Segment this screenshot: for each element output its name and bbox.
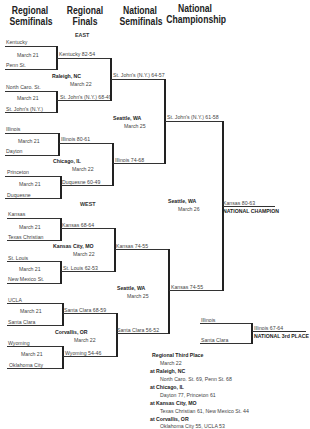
game-date: March 26 [178,206,200,212]
header-regional-finals: Regional Finals [65,5,106,27]
bracket-line [7,218,61,219]
third-place-site: at Chicago, IL [150,384,184,390]
bracket-line [7,240,61,241]
third-place-result: North Caro. St. 69, Penn St. 68 [160,376,232,382]
bracket-line [5,46,57,47]
team-entry: Kentucky [6,39,27,45]
bracket-line [251,323,253,344]
team-entry: Kentucky 82-54 [59,51,95,57]
bracket-line [112,143,114,186]
bracket-line [116,313,118,357]
bracket-line [7,303,63,304]
game-site: Chicago, IL [53,158,81,164]
bracket-line [117,333,169,334]
team-entry: St. John's (N.Y.) 64-57 [113,72,165,78]
bracket-line [7,261,61,262]
team-entry: Illinois 80-61 [61,136,90,142]
game-date: March 21 [17,95,39,101]
game-date: March 22 [74,337,96,343]
team-entry: St. John's (N.Y.) 61-58 [167,114,219,120]
third-place-label: NATIONAL 3rd PLACE [254,333,309,339]
bracket-line [61,185,113,186]
bracket-line [57,100,111,101]
game-date: March 25 [124,123,146,129]
game-date: March 22 [72,166,94,172]
game-date: March 21 [18,138,40,144]
header-national-semifinals: National Semifinals [120,5,161,27]
bracket-line [169,290,223,291]
game-site: Seattle, WA [117,285,145,291]
team-entry: Penn St. [6,62,26,68]
bracket-line [5,176,61,177]
game-date: March 21 [19,224,41,230]
team-entry: Princeton [7,169,29,175]
bracket-line [5,91,57,92]
game-site: Corvallis, OR [55,329,88,335]
bracket-line [7,283,61,284]
region-east-label: EAST [75,32,89,38]
game-date: March 22 [70,81,92,87]
third-place-result: Oklahoma City 55, UCLA 53 [160,423,225,429]
bracket-line [200,323,252,324]
game-date: March 21 [21,351,43,357]
header-national-championship: National Championship [166,3,223,25]
team-entry: Illinois [6,126,20,132]
game-date: March 21 [17,52,39,58]
game-date: March 21 [20,308,42,314]
bracket-line [115,249,169,250]
game-date: March 21 [19,266,41,272]
bracket-line [61,228,115,229]
bracket-line [113,163,165,164]
bracket-line [114,228,116,272]
third-place-title: Regional Third Place [152,352,203,358]
team-entry: New Mexico St. [8,276,44,282]
bracket-line [61,271,115,272]
third-place-site: at Corvallis, OR [150,416,189,422]
bracket-line [5,133,59,134]
bracket-line [57,58,111,59]
game-site: Seattle, WA [113,115,141,121]
bracket-line [5,69,57,70]
bracket-line [168,249,170,334]
bracket-line [252,331,306,332]
third-place-site: at Raleigh, NC [150,368,185,374]
bracket-line [5,112,57,113]
game-site: Seattle, WA [168,198,196,204]
bracket-line [62,346,64,369]
third-place-date: March 22 [160,360,182,366]
game-site: Kansas City, MO [53,243,94,249]
third-place-result: Texas Christian 61, New Mexico St. 44 [160,408,249,414]
team-entry: Dayton [6,148,22,154]
bracket-line [5,155,59,156]
bracket-line [111,79,165,80]
bracket-line [165,121,223,122]
bracket-line [59,143,113,144]
game-date: March 25 [127,293,149,299]
bracket-line [60,261,62,284]
region-west-label: WEST [80,201,96,207]
game-date: March 21 [19,181,41,187]
team-entry: Kansas [8,211,25,217]
bracket-line [63,356,117,357]
bracket-line [58,133,60,156]
bracket-line [5,198,61,199]
game-site: Raleigh, NC [52,73,81,79]
third-place-result: Dayton 77, Princeton 61 [160,392,216,398]
bracket-line [7,346,63,347]
team-entry: North Caro. St. [6,84,41,90]
game-date: March 22 [73,251,95,257]
third-place-site: at Kansas City, MO [150,400,197,406]
bracket-line [56,91,58,113]
bracket-line [7,368,63,369]
bracket-line [223,206,275,207]
header-regional-semifinals: Regional Semifinals [10,5,51,27]
bracket-line [7,325,63,326]
champion-label: NATIONAL CHAMPION [223,208,279,214]
bracket-line [200,343,252,344]
bracket-line [63,313,117,314]
